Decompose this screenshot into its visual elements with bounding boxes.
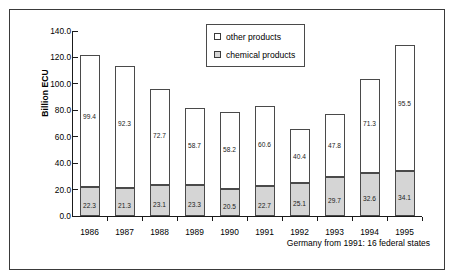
y-axis-tick-label: 100.0 — [50, 79, 71, 89]
bar-segment-chemical-products: 22.7 — [255, 186, 275, 216]
bar-value-other-products: 58.7 — [186, 142, 204, 149]
bar-value-other-products: 58.2 — [221, 146, 239, 153]
bar-1986: 99.422.3 — [80, 55, 100, 216]
bar-value-chemical-products: 20.5 — [221, 203, 239, 210]
bar-value-chemical-products: 23.1 — [151, 201, 169, 208]
y-axis-tick-label: 80.0 — [55, 105, 71, 115]
y-axis-tick-mark — [73, 110, 78, 111]
bar-1991: 60.622.7 — [255, 106, 275, 216]
bar-value-chemical-products: 22.3 — [81, 202, 99, 209]
bar-segment-other-products: 58.2 — [220, 112, 240, 189]
bar-value-other-products: 99.4 — [81, 113, 99, 120]
x-axis-tick-mark — [352, 217, 353, 221]
bar-value-other-products: 72.7 — [151, 132, 169, 139]
bar-value-chemical-products: 34.1 — [396, 194, 414, 201]
bar-1988: 72.723.1 — [150, 89, 170, 216]
bar-1989: 58.723.3 — [185, 108, 205, 216]
bar-value-chemical-products: 29.7 — [326, 197, 344, 204]
bar-value-other-products: 40.4 — [291, 153, 309, 160]
y-axis-tick: 60.0 — [20, 132, 78, 142]
bar-segment-chemical-products: 25.1 — [290, 183, 310, 216]
legend-label-other-products: other products — [226, 32, 281, 42]
x-axis-label-1995: 1995 — [381, 227, 429, 237]
bar-1992: 40.425.1 — [290, 129, 310, 216]
bar-1994: 71.332.6 — [360, 79, 380, 216]
bar-1990: 58.220.5 — [220, 112, 240, 216]
x-axis-tick-mark — [247, 217, 248, 221]
y-axis-tick-label: 60.0 — [55, 132, 71, 142]
y-axis-tick-mark — [73, 163, 78, 164]
bar-segment-other-products: 60.6 — [255, 106, 275, 186]
y-axis-tick-mark — [73, 83, 78, 84]
y-axis-tick-label: 0.0 — [59, 211, 71, 221]
gray-square-icon — [214, 51, 221, 58]
bar-value-chemical-products: 32.6 — [361, 195, 379, 202]
x-axis-tick-mark — [177, 217, 178, 221]
x-axis-tick-mark — [142, 217, 143, 221]
bar-segment-chemical-products: 23.3 — [185, 185, 205, 216]
bar-segment-other-products: 72.7 — [150, 89, 170, 185]
bar-segment-other-products: 58.7 — [185, 108, 205, 186]
y-axis-tick: 140.0 — [20, 26, 78, 36]
y-axis-tick-label: 120.0 — [50, 52, 71, 62]
x-axis-tick-mark — [282, 217, 283, 221]
y-axis-tick-mark — [73, 189, 78, 190]
bar-segment-other-products: 47.8 — [325, 114, 345, 177]
y-axis-tick-mark — [73, 31, 78, 32]
bar-1993: 47.829.7 — [325, 114, 345, 216]
y-axis-tick: 80.0 — [20, 105, 78, 115]
bar-segment-chemical-products: 20.5 — [220, 189, 240, 216]
bar-segment-chemical-products: 29.7 — [325, 177, 345, 216]
legend-label-chemical-products: chemical products — [226, 50, 295, 60]
y-axis-tick-mark — [73, 216, 78, 217]
y-axis-tick: 120.0 — [20, 52, 78, 62]
y-axis-tick-mark — [73, 136, 78, 137]
bar-segment-chemical-products: 21.3 — [115, 188, 135, 216]
x-axis-tick-mark — [317, 217, 318, 221]
bar-value-chemical-products: 22.7 — [256, 202, 274, 209]
bar-segment-other-products: 71.3 — [360, 79, 380, 173]
x-axis-tick-mark — [422, 217, 423, 221]
bar-value-other-products: 92.3 — [116, 120, 134, 127]
legend-item-chemical-products: chemical products — [214, 48, 295, 61]
y-axis-tick-mark — [73, 57, 78, 58]
bar-value-other-products: 95.5 — [396, 100, 414, 107]
y-axis-tick-label: 40.0 — [55, 158, 71, 168]
bar-segment-chemical-products: 23.1 — [150, 185, 170, 216]
chart-legend: other products chemical products — [206, 24, 305, 67]
bar-value-chemical-products: 25.1 — [291, 200, 309, 207]
y-axis-tick-label: 140.0 — [50, 26, 71, 36]
bar-segment-chemical-products: 22.3 — [80, 187, 100, 216]
bar-segment-other-products: 99.4 — [80, 55, 100, 186]
bar-segment-other-products: 92.3 — [115, 66, 135, 188]
y-axis-tick: 20.0 — [20, 185, 78, 195]
chart-figure: Billion ECU 0.020.040.060.080.0100.0120.… — [9, 9, 445, 270]
x-axis-tick-mark — [387, 217, 388, 221]
x-axis-tick-mark — [107, 217, 108, 221]
bar-value-other-products: 47.8 — [326, 142, 344, 149]
bar-segment-chemical-products: 32.6 — [360, 173, 380, 216]
y-axis-tick: 100.0 — [20, 79, 78, 89]
x-axis-tick-mark — [212, 217, 213, 221]
y-axis-tick-label: 20.0 — [55, 185, 71, 195]
y-axis-tick: 0.0 — [20, 211, 78, 221]
bar-1987: 92.321.3 — [115, 66, 135, 216]
y-axis-tick: 40.0 — [20, 158, 78, 168]
bar-segment-other-products: 40.4 — [290, 129, 310, 182]
chart-footnote: Germany from 1991: 16 federal states — [287, 238, 430, 248]
bar-value-chemical-products: 23.3 — [186, 201, 204, 208]
bar-value-chemical-products: 21.3 — [116, 202, 134, 209]
white-square-icon — [214, 33, 221, 40]
legend-item-other-products: other products — [214, 30, 295, 43]
bar-segment-chemical-products: 34.1 — [395, 171, 415, 216]
bar-value-other-products: 71.3 — [361, 120, 379, 127]
bar-value-other-products: 60.6 — [256, 141, 274, 148]
bar-1995: 95.534.1 — [395, 45, 415, 216]
bar-segment-other-products: 95.5 — [395, 45, 415, 171]
